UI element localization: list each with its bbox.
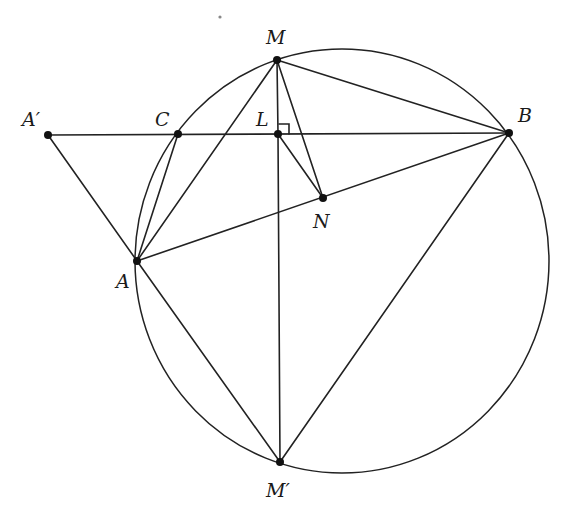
label-a-prime: A′: [20, 108, 41, 130]
point-l: [274, 130, 282, 138]
point-a-prime: [44, 131, 52, 139]
label-c: C: [155, 108, 170, 130]
segment-m-b: [277, 60, 509, 133]
circumcircle: [135, 49, 549, 473]
point-m-prime: [276, 458, 284, 466]
point-a: [133, 257, 141, 265]
diagram-canvas: MA′CLBNAM′: [0, 0, 565, 517]
label-l: L: [255, 108, 269, 130]
point-m: [273, 56, 281, 64]
scan-speck: [218, 15, 221, 18]
geometry-diagram: MA′CLBNAM′: [0, 0, 565, 517]
label-a: A: [114, 270, 130, 292]
point-b: [505, 129, 513, 137]
segment-aprime-a: [48, 135, 137, 261]
segment-a-c: [137, 134, 178, 261]
point-labels: MA′CLBNAM′: [20, 26, 532, 501]
segment-a-mprime: [137, 261, 280, 462]
label-m-prime: M′: [265, 479, 290, 501]
segment-b-mprime: [280, 133, 509, 462]
segments: [48, 60, 509, 462]
segment-l-mprime: [278, 134, 280, 462]
segment-l-n: [278, 134, 323, 198]
circle: [135, 49, 549, 473]
point-n: [319, 194, 327, 202]
segment-m-n: [277, 60, 323, 198]
label-n: N: [312, 210, 331, 232]
label-m: M: [265, 26, 286, 48]
segment-m-l: [277, 60, 278, 134]
point-c: [174, 130, 182, 138]
label-b: B: [517, 104, 532, 126]
segment-m-a: [137, 60, 277, 261]
